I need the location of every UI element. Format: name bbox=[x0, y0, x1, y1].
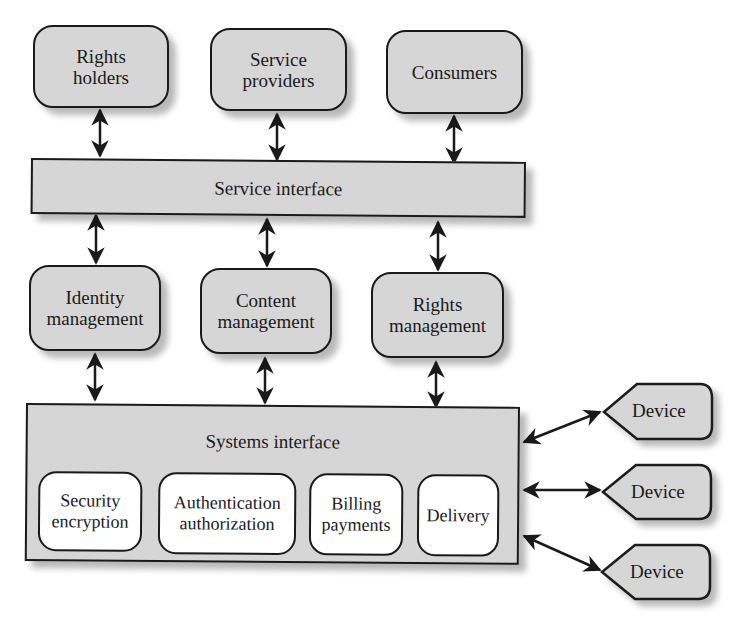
identity-management-label: Identity management bbox=[46, 287, 143, 329]
arrow-systems-device-1 bbox=[524, 412, 600, 442]
service-interface-bar: Service interface bbox=[31, 158, 526, 218]
consumers-box: Consumers bbox=[386, 30, 523, 114]
content-management-label: Content management bbox=[217, 290, 314, 332]
rights-holders-label: Rights holders bbox=[73, 46, 129, 88]
delivery-label: Delivery bbox=[427, 505, 490, 526]
rights-holders-box: Rights holders bbox=[33, 25, 169, 108]
service-providers-label: Service providers bbox=[243, 49, 315, 91]
identity-management-box: Identity management bbox=[29, 265, 161, 351]
systems-interface-label: Systems interface bbox=[28, 429, 518, 454]
authentication-authorization-module: Authentication authorization bbox=[158, 472, 297, 555]
arrow-systems-device-3 bbox=[524, 536, 600, 570]
billing-payments-label: Billing payments bbox=[321, 493, 390, 536]
security-encryption-label: Security encryption bbox=[51, 490, 128, 533]
consumers-label: Consumers bbox=[412, 62, 498, 83]
billing-payments-module: Billing payments bbox=[309, 473, 404, 556]
service-providers-box: Service providers bbox=[210, 28, 347, 111]
systems-interface-box: Systems interface Security encryption Au… bbox=[25, 403, 520, 565]
rights-management-label: Rights management bbox=[389, 294, 486, 336]
device-2-label: Device bbox=[631, 481, 685, 503]
authentication-authorization-label: Authentication authorization bbox=[173, 492, 280, 535]
security-encryption-module: Security encryption bbox=[38, 471, 143, 552]
device-1-label: Device bbox=[632, 400, 686, 422]
device-3-label: Device bbox=[630, 561, 684, 583]
delivery-module: Delivery bbox=[417, 474, 500, 557]
service-interface-label: Service interface bbox=[214, 177, 342, 199]
rights-management-box: Rights management bbox=[371, 272, 504, 358]
content-management-box: Content management bbox=[200, 268, 332, 354]
